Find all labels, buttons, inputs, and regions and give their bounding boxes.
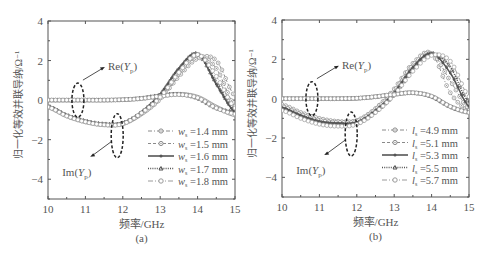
open-marker: [158, 95, 162, 99]
circle-dot: [442, 76, 443, 77]
y-tick-label: −2: [265, 132, 277, 144]
circle-dot: [214, 58, 215, 59]
open-marker: [136, 114, 140, 118]
open-marker: [229, 111, 233, 115]
open-marker: [83, 120, 87, 124]
circle-dot: [231, 100, 232, 101]
open-marker: [385, 93, 389, 97]
circle-dot: [233, 93, 234, 94]
panel-caption: (a): [135, 232, 148, 245]
x-tick-label: 13: [155, 203, 167, 215]
open-marker: [169, 80, 173, 84]
open-marker: [287, 111, 291, 115]
open-marker: [441, 100, 445, 104]
open-marker: [467, 110, 471, 114]
circle-dot: [210, 56, 211, 57]
open-marker: [463, 89, 467, 93]
legend-item: ws =1.8 mm: [148, 176, 228, 188]
legend-item: ls =5.5 mm: [382, 163, 458, 175]
legend-marker: [394, 154, 397, 157]
legend-item: ls =5.3 mm: [382, 150, 458, 162]
open-marker: [53, 108, 57, 112]
open-marker: [291, 113, 295, 117]
open-marker: [147, 105, 151, 109]
legend-marker-dot: [160, 130, 161, 131]
legend-label: ls =5.7 mm: [412, 175, 458, 187]
open-marker: [117, 123, 121, 127]
open-marker: [203, 58, 207, 62]
open-marker: [362, 119, 366, 123]
x-tick-label: 10: [277, 201, 289, 213]
open-marker: [143, 96, 147, 100]
open-marker: [50, 106, 54, 110]
open-marker: [184, 93, 188, 97]
open-marker: [433, 96, 437, 100]
open-marker: [222, 88, 226, 92]
open-marker: [388, 97, 392, 101]
open-marker: [218, 81, 222, 85]
open-marker: [437, 98, 441, 102]
open-marker: [76, 118, 80, 122]
open-marker: [233, 112, 237, 116]
open-marker: [314, 121, 318, 125]
circle-dot: [446, 85, 447, 86]
legend-marker: [160, 155, 163, 158]
circle-dot: [191, 62, 192, 63]
open-marker: [181, 66, 185, 70]
chart-a: 101112131415420−2−4频率/GHz(a)归一化等效并联导纳/Ω⁻…: [0, 0, 244, 258]
curves: [46, 51, 237, 127]
filled-marker: [449, 72, 452, 75]
y-tick-label: 4: [38, 15, 44, 27]
open-marker: [184, 61, 188, 65]
circle-dot: [453, 97, 454, 98]
legend-item: ws =1.7 mm: [148, 164, 228, 176]
circle-dot: [206, 56, 207, 57]
re-label: Re(Yp): [342, 59, 372, 74]
open-marker: [437, 53, 441, 57]
open-marker: [91, 121, 95, 125]
open-marker: [199, 54, 203, 58]
open-marker: [370, 95, 374, 99]
open-marker: [154, 99, 158, 103]
open-marker: [226, 95, 230, 99]
circle-dot: [450, 92, 451, 93]
re-arrowhead: [334, 66, 339, 70]
open-marker: [430, 53, 434, 57]
im-ellipse: [111, 114, 123, 158]
open-marker: [362, 96, 366, 100]
open-marker: [199, 97, 203, 101]
legend-marker: [393, 178, 397, 182]
open-marker: [422, 92, 426, 96]
legend-label: ws =1.6 mm: [178, 151, 228, 163]
open-marker: [351, 123, 355, 127]
x-tick-label: 11: [314, 201, 325, 213]
im-label: Im(Yp): [62, 166, 92, 181]
open-marker: [128, 118, 132, 122]
open-marker: [166, 93, 170, 97]
legend-marker: [393, 166, 397, 170]
x-tick-label: 10: [43, 203, 55, 215]
circle-dot: [467, 106, 468, 107]
im-arrow: [92, 142, 111, 156]
open-marker: [181, 93, 185, 97]
y-axis-label: 归一化等效并联导纳/Ω⁻¹: [12, 51, 24, 160]
open-marker: [147, 96, 151, 100]
open-marker: [370, 113, 374, 117]
open-marker: [188, 57, 192, 61]
open-marker: [467, 95, 471, 99]
open-marker: [445, 56, 449, 60]
circle-dot: [195, 59, 196, 60]
circle-dot: [457, 102, 458, 103]
re-arrow: [317, 67, 337, 79]
open-marker: [445, 103, 449, 107]
open-marker: [132, 97, 136, 101]
open-marker: [98, 123, 102, 127]
open-marker: [166, 86, 170, 90]
legend-marker-dot: [394, 142, 395, 143]
chart-panel-a: 101112131415420−2−4频率/GHz(a)归一化等效并联导纳/Ω⁻…: [0, 0, 244, 258]
open-marker: [203, 100, 207, 104]
panel-caption: (b): [369, 230, 382, 243]
open-marker: [211, 104, 215, 108]
circle-dot: [440, 64, 441, 65]
open-marker: [310, 120, 314, 124]
